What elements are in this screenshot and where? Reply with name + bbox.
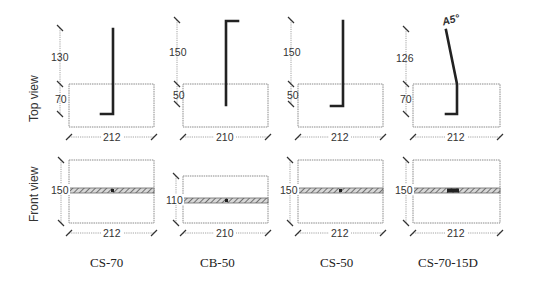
row-label-top: Top view (27, 75, 41, 122)
dim-width: 210 (216, 227, 234, 239)
dim-embed-length: 126 (396, 52, 414, 64)
dim-depth: 70 (55, 93, 67, 105)
specimen-caption: CS-70-15D (418, 255, 478, 270)
dim-depth: 50 (287, 89, 299, 101)
dim-height: 150 (395, 184, 413, 196)
specimen-caption: CB-50 (200, 255, 235, 270)
rebar (226, 21, 238, 105)
rebar-inclined (446, 30, 457, 114)
rebar (101, 29, 113, 114)
specimen-cs-70: 130 70 212 150 212 CS-70 (50, 25, 157, 270)
dim-width: 212 (447, 131, 465, 143)
dim-embed-length: 130 (51, 51, 69, 63)
dim-depth: 50 (173, 89, 185, 101)
front-view: 150 212 (279, 157, 386, 239)
front-view: 110 210 (166, 173, 271, 239)
top-view: 130 70 212 (51, 25, 157, 143)
specimen-caption: CS-70 (90, 255, 123, 270)
dim-width: 212 (103, 131, 121, 143)
dim-width: 210 (216, 131, 234, 143)
dim-depth: 70 (400, 93, 412, 105)
dim-height: 150 (51, 184, 69, 196)
dim-width: 212 (331, 227, 349, 239)
specimen-diagram: Top view Front view 130 70 212 (0, 0, 536, 291)
specimen-cs-70-15d: 126 70 A5° 212 150 212 CS-70-15D (394, 11, 503, 270)
dim-embed-length: 150 (169, 46, 187, 58)
front-view: 150 212 (50, 157, 157, 239)
front-view: 150 212 (394, 157, 503, 239)
specimen-cb-50: 150 50 210 110 210 CB-50 (166, 17, 271, 270)
rebar (331, 21, 343, 106)
dim-angle: A5° (440, 11, 462, 28)
top-view: 150 50 212 (283, 17, 386, 143)
dim-embed-length: 150 (283, 46, 301, 58)
dim-width: 212 (103, 227, 121, 239)
block-outline (69, 84, 154, 127)
dim-width: 212 (331, 131, 349, 143)
dim-height: 150 (280, 184, 298, 196)
top-view: 150 50 210 (169, 17, 271, 143)
row-label-front: Front view (27, 166, 41, 222)
dim-height: 110 (166, 194, 183, 206)
top-view: 126 70 A5° 212 (396, 11, 503, 143)
specimen-cs-50: 150 50 212 150 212 CS-50 (279, 17, 386, 270)
dim-width: 212 (447, 227, 465, 239)
specimen-caption: CS-50 (320, 255, 353, 270)
